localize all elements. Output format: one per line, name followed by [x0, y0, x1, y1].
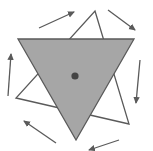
- center-point: [71, 72, 78, 79]
- rotation-arrow-top-right: [108, 10, 135, 30]
- rotation-arrow-left: [8, 54, 11, 96]
- rotation-arrow-bottom-right: [89, 140, 119, 150]
- rotation-arrow-right: [136, 60, 140, 103]
- rotation-diagram: [0, 0, 153, 151]
- rotation-arrow-bottom-left: [24, 121, 56, 143]
- rotation-arrow-top-left: [39, 12, 74, 28]
